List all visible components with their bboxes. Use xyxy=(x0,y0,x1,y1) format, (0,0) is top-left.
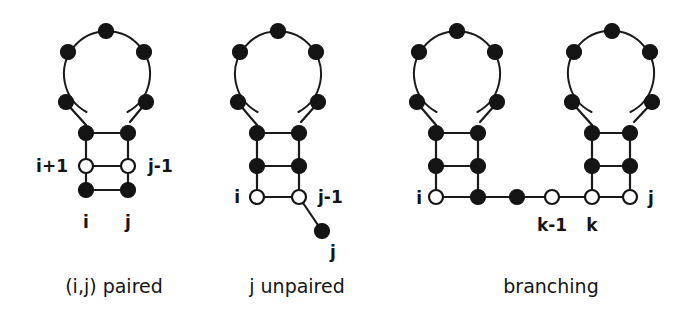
label-i: i xyxy=(83,212,89,232)
stem-node xyxy=(250,126,265,141)
node-j xyxy=(623,190,637,204)
label-k: k xyxy=(586,215,598,235)
stem-node xyxy=(250,159,265,174)
stem-node xyxy=(429,126,444,141)
stem-node-i-plus-1 xyxy=(79,159,93,173)
loop-node xyxy=(139,95,154,110)
stem-node-j xyxy=(121,183,136,198)
label-i: i xyxy=(416,188,422,208)
node-k-minus-1 xyxy=(545,190,559,204)
panel-paired: i+1 j-1 i j (i,j) paired xyxy=(36,24,173,298)
stem-node xyxy=(471,159,486,174)
loop-node xyxy=(488,45,503,60)
loop-node xyxy=(309,45,324,60)
node-i xyxy=(429,190,443,204)
dangling-node-j xyxy=(315,224,330,239)
stem-node xyxy=(585,126,600,141)
loop-node xyxy=(233,45,248,60)
hairpin-loop-arc-right xyxy=(568,31,654,112)
loop-node xyxy=(450,24,465,39)
stem-node xyxy=(292,159,307,174)
node-chain-1 xyxy=(510,190,525,205)
stem-node-i xyxy=(79,183,94,198)
stem-node xyxy=(292,126,307,141)
loop-node xyxy=(643,45,658,60)
stem-node xyxy=(585,159,600,174)
label-i-plus-1: i+1 xyxy=(36,156,68,176)
loop-node xyxy=(410,95,425,110)
hairpin-loop-arc-left xyxy=(414,31,500,112)
panel-branching: i k-1 k j branching xyxy=(410,24,660,298)
label-j-minus-1: j-1 xyxy=(317,187,343,207)
label-j: j xyxy=(647,188,654,208)
stem-node xyxy=(471,126,486,141)
loop-node xyxy=(645,95,660,110)
loop-node xyxy=(412,45,427,60)
stem-node-j-minus-1 xyxy=(292,190,306,204)
panel-caption-branching: branching xyxy=(503,275,598,297)
label-j: j xyxy=(124,212,131,232)
label-i: i xyxy=(234,187,240,207)
stem-node xyxy=(79,126,94,141)
stem-node-j-minus-1 xyxy=(121,159,135,173)
loop-node xyxy=(311,95,326,110)
loop-node xyxy=(565,95,580,110)
node-after-left-stem xyxy=(471,190,486,205)
node-k xyxy=(585,190,599,204)
panel-caption-paired: (i,j) paired xyxy=(65,275,163,297)
loop-node xyxy=(231,95,246,110)
loop-node xyxy=(605,24,620,39)
stem-node-i xyxy=(250,190,264,204)
stem-node xyxy=(623,159,638,174)
rna-structure-figure: i+1 j-1 i j (i,j) paired xyxy=(0,0,694,326)
loop-node xyxy=(137,45,152,60)
loop-node xyxy=(99,24,114,39)
hairpin-loop-arc xyxy=(235,31,321,112)
panel-caption-unpaired: j unpaired xyxy=(248,275,345,297)
rna-diagram-svg: i+1 j-1 i j (i,j) paired xyxy=(0,0,694,326)
loop-node xyxy=(271,24,286,39)
loop-node xyxy=(567,45,582,60)
label-j-minus-1: j-1 xyxy=(147,156,173,176)
loop-node xyxy=(490,95,505,110)
stem-node xyxy=(623,126,638,141)
stem-node xyxy=(121,126,136,141)
hairpin-loop-arc xyxy=(64,31,150,112)
loop-node xyxy=(61,45,76,60)
loop-node xyxy=(59,95,74,110)
label-j: j xyxy=(329,242,336,262)
panel-unpaired: i j-1 j j unpaired xyxy=(231,24,345,298)
stem-node xyxy=(429,159,444,174)
label-k-minus-1: k-1 xyxy=(537,215,567,235)
